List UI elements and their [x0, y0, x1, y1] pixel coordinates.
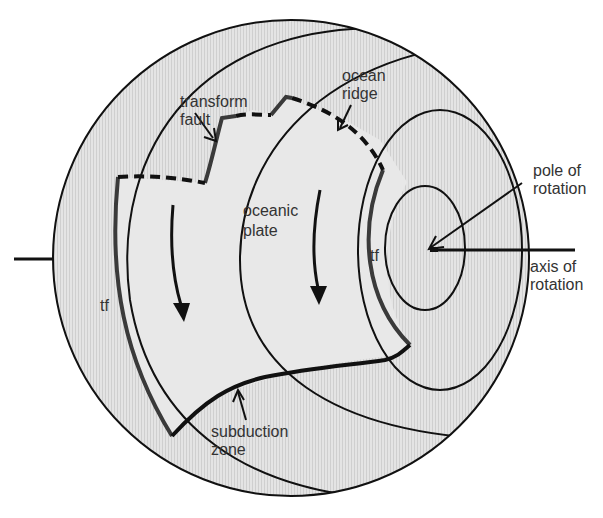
plate-tectonics-diagram: transform fault ocean ridge pole of rota…: [0, 0, 603, 518]
label-ocean-ridge-1: ocean: [342, 67, 386, 84]
label-tf-right: tf: [370, 247, 379, 264]
label-transform-fault-1: transform: [180, 93, 248, 110]
label-transform-fault-2: fault: [180, 111, 211, 128]
label-subduction-zone-1: subduction: [211, 423, 288, 440]
label-ocean-ridge-2: ridge: [342, 85, 378, 102]
label-tf-left: tf: [100, 297, 109, 314]
label-pole-of-rotation-2: rotation: [533, 180, 586, 197]
label-axis-of-rotation-2: rotation: [530, 276, 583, 293]
label-pole-of-rotation-1: pole of: [533, 162, 582, 179]
label-oceanic-plate-1: oceanic: [243, 202, 298, 219]
label-axis-of-rotation-1: axis of: [530, 258, 577, 275]
label-subduction-zone-2: zone: [211, 441, 246, 458]
label-oceanic-plate-2: plate: [243, 222, 278, 239]
